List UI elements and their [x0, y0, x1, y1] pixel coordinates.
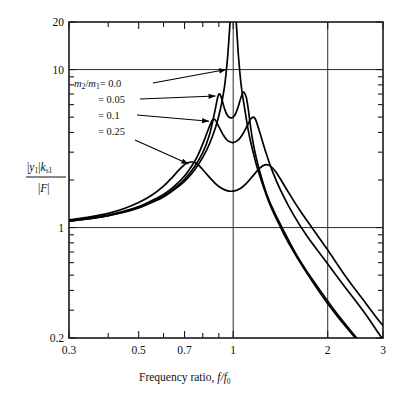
x-tick-label-0.3: 0.3: [62, 344, 77, 356]
y-tick-label-20: 20: [53, 16, 65, 28]
x-tick-label-0.7: 0.7: [177, 344, 192, 356]
y-tick-label-1: 1: [58, 222, 64, 234]
frequency-response-chart: 0.211020 0.30.50.7123 |y1|ks1 |F| Freque…: [0, 0, 409, 400]
x-tick-label-3: 3: [380, 344, 386, 356]
legend-row-3: = 0.1: [98, 110, 120, 121]
x-tick-label-1: 1: [230, 344, 236, 356]
legend-row-2: = 0.05: [98, 94, 125, 105]
y-tick-label-10: 10: [53, 64, 65, 76]
x-tick-label-2: 2: [325, 344, 331, 356]
chart-figure: 0.211020 0.30.50.7123 |y1|ks1 |F| Freque…: [0, 0, 409, 400]
x-tick-label-0.5: 0.5: [131, 344, 146, 356]
y-tick-label-0.2: 0.2: [50, 332, 65, 344]
legend-row-4: = 0.25: [98, 126, 125, 137]
y-axis-denominator: |F|: [38, 182, 50, 195]
